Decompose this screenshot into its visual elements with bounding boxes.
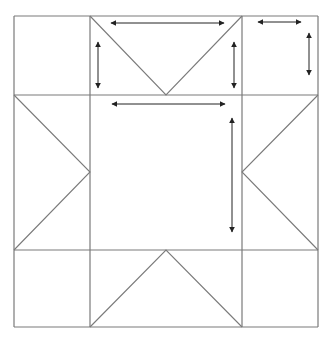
diagram-svg xyxy=(0,0,333,344)
triangle-lines xyxy=(14,16,318,327)
bottom-flying-geese-triangle xyxy=(90,250,242,327)
top-flying-geese-triangle xyxy=(90,16,242,95)
grid-lines xyxy=(14,16,318,327)
quilt-block-diagram xyxy=(0,0,333,344)
right-flying-geese-triangle xyxy=(242,95,318,250)
left-flying-geese-triangle xyxy=(14,95,90,250)
grain-arrows xyxy=(98,22,309,232)
